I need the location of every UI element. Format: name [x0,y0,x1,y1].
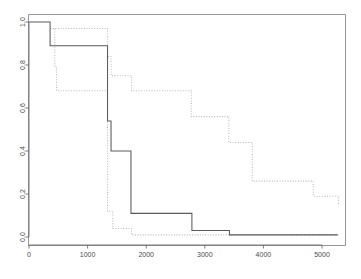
y-tick-labels: 0.00.20.40.60.81.0 [19,17,26,242]
y-tick-label: 0.0 [19,232,26,242]
y-tick-label: 0.8 [19,60,26,70]
y-tick-label: 0.2 [19,189,26,199]
series-group [29,22,338,235]
y-tick-label: 1.0 [19,17,26,27]
dotted-lower-series [50,28,338,234]
survival-curve-chart: 010002000300040005000 0.00.20.40.60.81.0 [0,0,361,279]
y-tick-label: 0.6 [19,103,26,113]
x-tick-label: 0 [27,251,31,258]
dotted-upper-series [50,28,338,204]
x-tick-label: 2000 [138,251,154,258]
x-tick-label: 5000 [314,251,330,258]
x-tick-labels: 010002000300040005000 [27,251,330,258]
frame-border [29,15,346,246]
solid-series [29,22,338,235]
y-tick-label: 0.4 [19,146,26,156]
x-tick-label: 3000 [197,251,213,258]
x-tick-label: 4000 [256,251,272,258]
x-tick-label: 1000 [80,251,96,258]
plot-area: 010002000300040005000 0.00.20.40.60.81.0 [0,0,361,279]
plot-frame [29,15,346,246]
